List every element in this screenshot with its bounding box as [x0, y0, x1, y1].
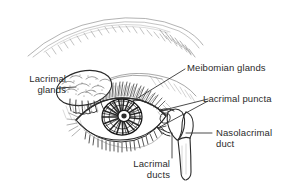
pupil: [118, 110, 130, 121]
outer-canthus-lines: [67, 113, 80, 136]
label-lacrimal-puncta: Lacrimal puncta: [203, 93, 272, 104]
lacrimal-apparatus-figure: Lacrimal glands Meibomian glands Lacrima…: [0, 0, 290, 193]
label-lacrimal-glands: Lacrimal glands: [6, 73, 66, 95]
label-lacrimal-puncta-line1: Lacrimal puncta: [203, 93, 272, 104]
nasolacrimal-duct-shading: [182, 144, 186, 174]
label-lacrimal-glands-line1: Lacrimal: [6, 73, 66, 84]
label-lacrimal-glands-line2: glands: [6, 84, 66, 95]
label-nasolacrimal-duct: Nasolacrimal duct: [216, 127, 272, 149]
label-lacrimal-ducts-line1: Lacrimal: [112, 158, 170, 169]
label-nasolacrimal-duct-line1: Nasolacrimal: [216, 127, 272, 138]
leader-meibomian-glands: [133, 69, 185, 106]
label-lacrimal-ducts-line2: ducts: [112, 169, 170, 180]
label-meibomian-glands: Meibomian glands: [187, 62, 266, 73]
nasolacrimal-duct-tube: [178, 137, 191, 180]
label-lacrimal-ducts: Lacrimal ducts: [112, 158, 170, 180]
label-meibomian-glands-line1: Meibomian glands: [187, 62, 266, 73]
label-nasolacrimal-duct-line2: duct: [216, 138, 272, 149]
